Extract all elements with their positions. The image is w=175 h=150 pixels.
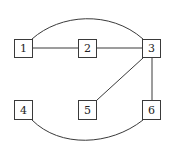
edges [32,19,152,141]
edge-3-5 [97,58,143,100]
node-6: 6 [143,101,161,120]
node-2: 2 [79,40,97,58]
node-6-label: 6 [148,104,155,117]
edge-4-6 [32,120,143,140]
node-3: 3 [143,40,161,58]
node-4-label: 4 [20,104,27,117]
node-5: 5 [79,101,97,120]
node-2-label: 2 [84,42,91,55]
node-3-label: 3 [148,42,155,55]
graph-diagram: 1 2 3 4 5 6 [0,0,175,150]
node-1-label: 1 [20,42,27,55]
node-5-label: 5 [84,104,91,117]
edge-1-3 [32,19,143,39]
node-4: 4 [15,101,33,120]
node-1: 1 [15,40,33,58]
